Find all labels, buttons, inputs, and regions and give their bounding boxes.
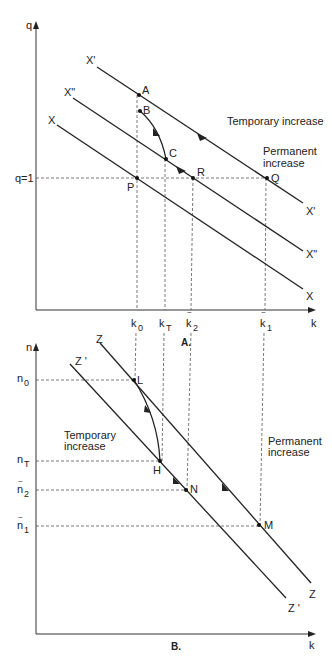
q-equals-1-label: q=1 <box>15 172 34 184</box>
svg-text:1: 1 <box>24 525 29 535</box>
point-b-label: B <box>143 104 150 116</box>
label-x-end: X <box>306 290 314 302</box>
x-tick-kT: k T <box>159 317 172 333</box>
svg-text:0: 0 <box>138 323 143 333</box>
point-m-label: M <box>264 519 273 531</box>
temporary-increase-label-a: Temporary increase <box>227 115 324 127</box>
x-tick-k1-tilde: ~ k 1 <box>260 308 272 333</box>
svg-text:2: 2 <box>193 323 198 333</box>
curve-z <box>100 343 311 583</box>
y-tick-n0: n 0 <box>17 372 29 388</box>
label-z-prime-start: Z ' <box>75 355 87 367</box>
k-axis-a-label: k <box>311 317 317 329</box>
svg-text:k: k <box>260 317 266 329</box>
label-x-double-prime-start: X" <box>64 86 75 98</box>
svg-text:T: T <box>24 459 30 469</box>
permanent-increase-label-a-2: increase <box>263 157 305 169</box>
arrow-icon <box>173 477 180 484</box>
label-z-prime-end: Z ' <box>288 602 300 614</box>
n-axis-label: n <box>26 341 32 353</box>
svg-text:1: 1 <box>267 323 272 333</box>
n-axis-arrow-icon <box>33 343 39 351</box>
svg-text:T: T <box>166 323 172 333</box>
panel-b: n k Z Z ' Z Z ' L H N <box>17 333 322 652</box>
point-p-label: P <box>127 181 134 193</box>
y-tick-n2-tilde: ~ n 2 <box>17 477 29 499</box>
panel-a-caption: A. <box>181 337 191 348</box>
point-c-label: C <box>169 147 177 159</box>
guides-a <box>36 95 267 310</box>
svg-text:n: n <box>17 483 23 495</box>
arrow-icon <box>222 483 229 491</box>
label-x-prime-start: X' <box>86 54 95 66</box>
label-x-prime-end: X' <box>306 205 315 217</box>
phase-diagram: q k q=1 X' X" X X' X" X <box>0 0 332 664</box>
point-q-label: Q <box>271 172 280 184</box>
point-h-label: H <box>153 464 161 476</box>
permanent-increase-label-a-1: Permanent <box>263 145 317 157</box>
label-x-start: X <box>48 114 56 126</box>
label-x-double-prime-end: X" <box>306 248 317 260</box>
panel-b-caption: B. <box>171 641 181 652</box>
point-r-label: R <box>197 166 205 178</box>
arrow-icon <box>153 128 160 136</box>
k-axis-b-arrow-icon <box>308 631 316 637</box>
permanent-increase-label-b-2: increase <box>268 446 310 458</box>
k-axis-a-arrow-icon <box>308 307 316 313</box>
svg-text:~: ~ <box>261 308 266 317</box>
k-axis-b-label: k <box>309 639 315 651</box>
q-axis-arrow-icon <box>33 21 39 29</box>
y-tick-n1-tilde: ~ n 1 <box>17 513 29 535</box>
guides-b <box>36 380 259 526</box>
svg-text:0: 0 <box>24 378 29 388</box>
y-tick-nT: n T <box>17 453 30 469</box>
guides-between <box>135 333 264 525</box>
q-axis-label: q <box>26 19 32 31</box>
arrow-icon <box>197 133 207 141</box>
panel-a: q k q=1 X' X" X X' X" X <box>15 19 324 348</box>
svg-text:~: ~ <box>187 308 192 317</box>
svg-text:n: n <box>17 519 23 531</box>
svg-text:k: k <box>186 317 192 329</box>
svg-text:2: 2 <box>24 489 29 499</box>
svg-text:n: n <box>17 372 23 384</box>
x-tick-k2-tilde: ~ k 2 <box>186 308 198 333</box>
path-l-to-h <box>134 380 160 461</box>
point-a-label: A <box>142 84 150 96</box>
label-z-end: Z <box>309 588 316 600</box>
point-n-label: N <box>190 483 198 495</box>
svg-text:n: n <box>17 453 23 465</box>
x-tick-k0: k 0 <box>131 317 143 333</box>
curve-z-prime <box>70 364 286 598</box>
svg-text:k: k <box>159 317 165 329</box>
point-l-label: L <box>137 374 143 386</box>
temporary-increase-label-b-2: increase <box>64 440 106 452</box>
label-z-start: Z <box>96 333 103 345</box>
svg-text:k: k <box>131 317 137 329</box>
